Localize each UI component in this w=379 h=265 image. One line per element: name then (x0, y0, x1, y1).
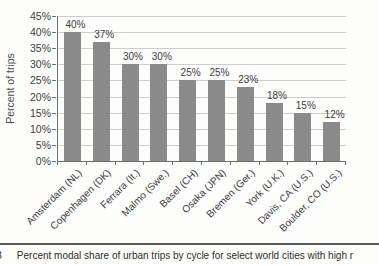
x-tick-mark (143, 162, 144, 165)
bar-chart: Percent of trips 0%5%10%15%20%25%30%35%4… (0, 0, 379, 242)
x-tick-mark (172, 162, 173, 165)
figure-caption-text: Percent modal share of urban trips by cy… (17, 245, 353, 261)
x-tick-mark (287, 162, 288, 165)
figure-caption: 3 Percent modal share of urban trips by … (0, 243, 379, 265)
x-tick-mark (57, 162, 58, 165)
scanned-book-figure: Percent of trips 0%5%10%15%20%25%30%35%4… (0, 0, 379, 265)
x-tick-mark (230, 162, 231, 165)
x-axis: Amsterdam (NL)Copenhagen (DK)Ferrara (It… (0, 0, 379, 242)
x-tick-mark (86, 162, 87, 165)
x-tick-mark (115, 162, 116, 165)
x-tick-mark (201, 162, 202, 165)
x-tick-mark (259, 162, 260, 165)
figure-number: 3 (0, 245, 2, 261)
x-tick-mark (316, 162, 317, 165)
x-tick-mark (345, 162, 346, 165)
